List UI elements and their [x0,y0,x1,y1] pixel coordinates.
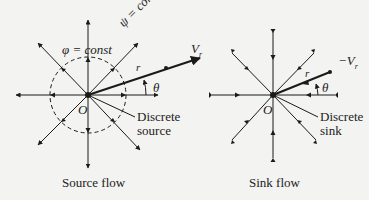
sink-origin-label: O [263,103,272,116]
radius-label: r [136,62,140,73]
streamline-downright [88,95,140,150]
discrete-source-label-1: Discrete [137,110,180,123]
source-flow-caption: Source flow [62,176,125,189]
sink-flow-caption: Sink flow [249,176,300,189]
sink-theta-label: θ [322,81,328,94]
discrete-sink-label-1: Discrete [320,110,363,123]
discrete-sink-label-2: sink [320,124,342,137]
phi-const-label: φ = const [62,43,112,56]
neg-velocity-label: −Vr [338,54,358,71]
flow-diagrams [0,0,369,200]
origin-label: O [78,103,87,116]
theta-label: θ [153,81,159,94]
velocity-label: Vr [191,42,202,59]
sink-radius-label: r [305,68,309,79]
discrete-source-label-2: source [137,124,171,137]
sink-flow-diagram [209,29,338,162]
velocity-vector [88,58,200,95]
